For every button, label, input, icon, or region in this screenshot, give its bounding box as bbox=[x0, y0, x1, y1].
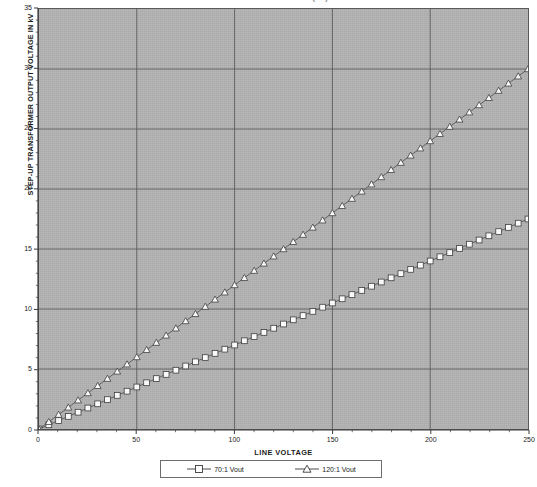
data-point-square bbox=[310, 309, 316, 315]
plot-area bbox=[38, 8, 529, 430]
data-point-square bbox=[388, 275, 394, 281]
data-point-square bbox=[65, 414, 71, 420]
data-point-square bbox=[486, 233, 492, 239]
data-point-triangle bbox=[349, 195, 356, 201]
data-point-triangle bbox=[231, 282, 238, 288]
data-point-square bbox=[124, 388, 130, 394]
data-point-triangle bbox=[192, 310, 199, 316]
data-point-square bbox=[447, 250, 453, 256]
x-axis-tick-label: 0 bbox=[18, 436, 58, 443]
data-point-triangle bbox=[466, 109, 473, 115]
data-point-triangle bbox=[182, 318, 189, 324]
data-point-square bbox=[56, 418, 62, 424]
data-point-triangle bbox=[124, 361, 131, 367]
data-point-square bbox=[212, 351, 218, 357]
data-point-triangle bbox=[290, 238, 297, 244]
data-point-square bbox=[349, 292, 355, 298]
data-point-triangle bbox=[45, 418, 52, 424]
data-point-square bbox=[173, 367, 179, 373]
data-point-triangle bbox=[300, 231, 307, 237]
y-axis-tick-label: 5 bbox=[10, 365, 32, 372]
data-point-square bbox=[241, 338, 247, 344]
data-point-triangle bbox=[212, 296, 219, 302]
x-axis-tick-label: 200 bbox=[411, 436, 451, 443]
data-point-triangle bbox=[368, 181, 375, 187]
plot-canvas bbox=[39, 9, 528, 429]
data-point-triangle bbox=[133, 354, 140, 360]
x-axis-tick-label: 100 bbox=[214, 436, 254, 443]
data-point-triangle bbox=[485, 94, 492, 100]
data-point-triangle bbox=[397, 159, 404, 165]
data-point-triangle bbox=[143, 346, 150, 352]
data-point-square bbox=[466, 241, 472, 247]
data-point-triangle bbox=[446, 123, 453, 129]
square-marker bbox=[186, 464, 212, 474]
legend-label: 120:1 Vout bbox=[322, 466, 355, 473]
data-point-triangle bbox=[388, 166, 395, 172]
x-axis-tick-label: 50 bbox=[116, 436, 156, 443]
data-point-triangle bbox=[104, 375, 111, 381]
data-point-square bbox=[339, 296, 345, 302]
data-point-square bbox=[476, 237, 482, 243]
data-point-square bbox=[427, 258, 433, 264]
data-point-triangle bbox=[427, 138, 434, 144]
data-point-triangle bbox=[65, 404, 72, 410]
data-point-triangle bbox=[153, 339, 160, 345]
data-point-triangle bbox=[515, 73, 522, 79]
data-point-square bbox=[202, 355, 208, 361]
y-axis-tick-label: 25 bbox=[10, 124, 32, 131]
data-point-square bbox=[369, 283, 375, 289]
chart-title-cropped: TRANSFORMER OUTPUT (kV) bbox=[0, 0, 537, 2]
y-axis-tick-label: 35 bbox=[10, 4, 32, 11]
y-axis-tick-label: 10 bbox=[10, 305, 32, 312]
data-point-triangle bbox=[319, 217, 326, 223]
chart-root: TRANSFORMER OUTPUT (kV) STEP-UP TRANSFOR… bbox=[0, 0, 537, 487]
data-point-triangle bbox=[75, 397, 82, 403]
y-axis-tick-label: 0 bbox=[10, 426, 32, 433]
data-point-square bbox=[114, 393, 120, 399]
data-point-triangle bbox=[85, 390, 92, 396]
data-point-square bbox=[457, 246, 463, 252]
data-point-square bbox=[496, 229, 502, 235]
data-point-triangle bbox=[505, 80, 512, 86]
data-point-square bbox=[85, 405, 91, 411]
data-point-square bbox=[320, 304, 326, 310]
data-point-triangle bbox=[329, 210, 336, 216]
data-point-triangle bbox=[270, 253, 277, 259]
data-point-triangle bbox=[173, 325, 180, 331]
data-point-triangle bbox=[495, 87, 502, 93]
triangle-marker bbox=[294, 464, 320, 474]
data-point-square bbox=[281, 321, 287, 327]
data-point-square bbox=[506, 225, 512, 231]
legend-square bbox=[196, 466, 203, 473]
data-point-triangle bbox=[94, 382, 101, 388]
data-point-square bbox=[193, 359, 199, 365]
data-point-square bbox=[525, 216, 528, 222]
data-point-triangle bbox=[241, 274, 248, 280]
data-point-triangle bbox=[309, 224, 316, 230]
data-point-square bbox=[271, 325, 277, 331]
data-point-triangle bbox=[251, 267, 258, 273]
data-point-triangle bbox=[163, 332, 170, 338]
data-point-square bbox=[95, 401, 101, 407]
data-point-triangle bbox=[437, 130, 444, 136]
data-point-triangle bbox=[417, 145, 424, 151]
data-point-square bbox=[300, 313, 306, 319]
data-point-triangle bbox=[378, 174, 385, 180]
y-axis-tick-label: 30 bbox=[10, 64, 32, 71]
legend: 70:1 Vout120:1 Vout bbox=[160, 460, 382, 478]
data-point-square bbox=[437, 254, 443, 260]
legend-entry[interactable]: 120:1 Vout bbox=[294, 464, 355, 474]
legend-entries: 70:1 Vout120:1 Vout bbox=[161, 461, 381, 477]
data-point-square bbox=[222, 346, 228, 352]
data-point-square bbox=[398, 271, 404, 277]
y-axis-tick-label: 15 bbox=[10, 245, 32, 252]
data-point-square bbox=[183, 363, 189, 369]
legend-entry[interactable]: 70:1 Vout bbox=[186, 464, 244, 474]
data-point-square bbox=[378, 279, 384, 285]
series-120-1-vout bbox=[39, 66, 528, 429]
legend-label: 70:1 Vout bbox=[214, 466, 244, 473]
data-point-triangle bbox=[407, 152, 414, 158]
data-point-square bbox=[232, 342, 238, 348]
data-point-square bbox=[290, 317, 296, 323]
